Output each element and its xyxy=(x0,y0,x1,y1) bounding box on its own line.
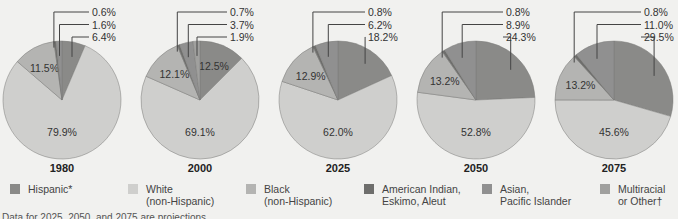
legend-item-white: White (non-Hispanic) xyxy=(128,183,214,207)
year-label-2025: 2025 xyxy=(308,162,368,174)
slice-label: 12.1% xyxy=(160,68,190,80)
pie-2050: 52.8%13.2%0.8%8.9%24.3% xyxy=(417,6,536,159)
footnote: Data for 2025, 2050, and 2075 are projec… xyxy=(2,212,209,219)
callout-label: 1.6% xyxy=(92,19,116,31)
slice-label: 62.0% xyxy=(323,126,353,138)
callout-label: 8.9% xyxy=(506,19,530,31)
callout-label: 0.7% xyxy=(230,6,254,18)
year-label-2000: 2000 xyxy=(170,162,230,174)
legend-label: Asian, Pacific Islander xyxy=(500,183,571,207)
legend-swatch xyxy=(600,184,610,194)
slice-label: 12.9% xyxy=(296,70,326,82)
callout-label: 3.7% xyxy=(230,19,254,31)
callout-label: 0.6% xyxy=(92,6,116,18)
callout-label: 0.8% xyxy=(506,6,530,18)
legend-item-black: Black (non-Hispanic) xyxy=(246,183,332,207)
slice-label: 45.6% xyxy=(599,126,629,138)
callout-label: 11.0% xyxy=(644,19,673,31)
callout-label: 24.3% xyxy=(506,31,536,43)
legend-label: Hispanic* xyxy=(28,183,72,195)
legend-label: Multiracial or Other† xyxy=(618,183,665,207)
legend-label: Black (non-Hispanic) xyxy=(264,183,332,207)
year-label-1980: 1980 xyxy=(32,162,92,174)
pie-1980: 79.9%11.5%0.6%1.6%6.4% xyxy=(3,6,121,159)
callout-label: 0.8% xyxy=(644,6,668,18)
callout-label: 6.2% xyxy=(368,19,392,31)
legend-item-multiracial: Multiracial or Other† xyxy=(600,183,665,207)
legend-item-hispanic: Hispanic* xyxy=(10,183,72,195)
callout-label: 0.8% xyxy=(368,6,392,18)
pie-2075: 45.6%13.2%0.8%11.0%29.5% xyxy=(555,6,674,159)
legend-label: White (non-Hispanic) xyxy=(146,183,214,207)
callout-label: 29.5% xyxy=(644,31,674,43)
slice-label: 13.2% xyxy=(430,75,460,87)
slice-label: 52.8% xyxy=(461,126,491,138)
legend: Hispanic* White (non-Hispanic) Black (no… xyxy=(0,183,678,213)
legend-swatch xyxy=(364,184,374,194)
legend-label: American Indian, Eskimo, Aleut xyxy=(382,183,461,207)
callout-label: 18.2% xyxy=(368,31,398,43)
slice-label: 79.9% xyxy=(47,126,77,138)
legend-swatch xyxy=(246,184,256,194)
slice-label: 11.5% xyxy=(30,62,59,74)
year-label-2050: 2050 xyxy=(446,162,506,174)
callout-label: 6.4% xyxy=(92,31,116,43)
pie-2000: 12.5%69.1%12.1%0.7%3.7%1.9% xyxy=(141,6,259,159)
legend-swatch xyxy=(10,184,20,194)
legend-item-american-indian: American Indian, Eskimo, Aleut xyxy=(364,183,461,207)
year-label-2075: 2075 xyxy=(584,162,644,174)
legend-swatch xyxy=(482,184,492,194)
slice-label: 13.2% xyxy=(566,79,596,91)
legend-item-asian: Asian, Pacific Islander xyxy=(482,183,571,207)
slice-label: 12.5% xyxy=(199,60,229,72)
pie-2025: 62.0%12.9%0.8%6.2%18.2% xyxy=(279,6,398,159)
pie-slice xyxy=(476,41,535,100)
callout-label: 1.9% xyxy=(230,31,254,43)
legend-swatch xyxy=(128,184,138,194)
slice-label: 69.1% xyxy=(185,126,215,138)
